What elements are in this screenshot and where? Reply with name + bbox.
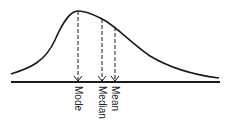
- mode-label: Mode: [73, 86, 84, 111]
- median-marker: [98, 19, 106, 81]
- distribution-curve: [11, 11, 219, 78]
- mean-marker: [111, 27, 119, 81]
- median-label: Median: [97, 86, 108, 119]
- skewed-distribution-diagram: Mode Median Mean: [0, 0, 231, 127]
- mode-marker: [74, 11, 82, 81]
- mean-label: Mean: [110, 86, 121, 111]
